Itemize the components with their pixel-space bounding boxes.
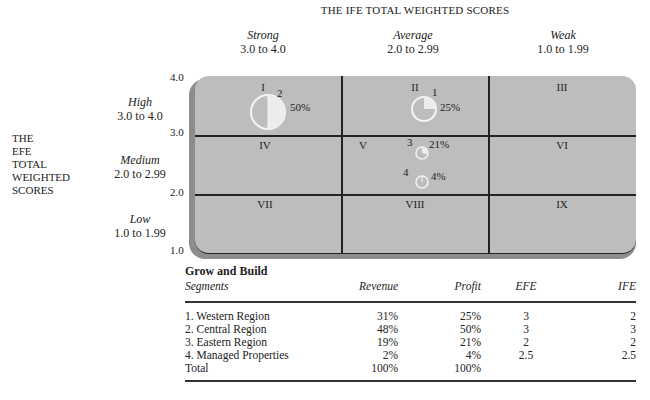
marker-number: 3	[407, 136, 413, 148]
cell-revenue: 19%	[377, 336, 398, 349]
row-header-low: Low 1.0 to 1.99	[100, 212, 180, 240]
cell-ife: 2.5	[622, 349, 636, 362]
marker-number: 2	[277, 87, 283, 99]
efe-title-line: THE	[12, 132, 70, 145]
pie-marker-eastern-region	[414, 145, 430, 161]
cell-ife: 2	[630, 310, 636, 323]
cell-ife: 2	[630, 336, 636, 349]
cell-revenue: 100%	[371, 362, 398, 375]
efe-title-line: WEIGHTED	[12, 171, 70, 184]
cell-segment: 3. Eastern Region	[185, 336, 267, 349]
cell-label-vii: VII	[245, 198, 285, 210]
ife-axis-title: THE IFE TOTAL WEIGHTED SCORES	[180, 4, 650, 16]
marker-percent: 21%	[429, 138, 449, 150]
cell-segment: 2. Central Region	[185, 323, 266, 336]
grid-divider	[341, 76, 343, 253]
cell-ife: 3	[630, 323, 636, 336]
cell-revenue: 48%	[377, 323, 398, 336]
row-header-medium: Medium 2.0 to 2.99	[100, 153, 180, 181]
col-label: Strong	[188, 28, 338, 42]
table-title: Grow and Build	[185, 264, 267, 279]
col-range: 1.0 to 1.99	[537, 42, 588, 56]
header-segments: Segments	[185, 280, 228, 292]
cell-label-v: V	[353, 139, 373, 151]
marker-number: 4	[403, 166, 409, 178]
table-row: 1. Western Region 31% 25% 3 2	[185, 310, 636, 323]
efe-title-line: EFE	[12, 145, 70, 158]
efe-title-line: TOTAL	[12, 158, 70, 171]
cell-segment: Total	[185, 362, 208, 375]
row-label: Low	[100, 212, 180, 226]
ie-matrix-grid: I II III IV V VI VII VIII IX 2 50% 1 25%…	[195, 76, 636, 254]
cell-label-iii: III	[542, 81, 582, 93]
cell-label-vi: VI	[542, 139, 582, 151]
header-efe: EFE	[506, 280, 546, 292]
col-label: Weak	[488, 28, 638, 42]
cell-efe: 3	[506, 323, 546, 336]
cell-profit: 4%	[466, 349, 481, 362]
cell-efe: 3	[506, 310, 546, 323]
grid-divider	[195, 135, 636, 137]
table-row: 3. Eastern Region 19% 21% 2 2	[185, 336, 636, 349]
col-header-strong: Strong 3.0 to 4.0	[188, 28, 338, 56]
table-row: 2. Central Region 48% 50% 3 3	[185, 323, 636, 336]
cell-label-ii: II	[395, 81, 435, 93]
grid-divider	[488, 76, 490, 253]
efe-title-line: SCORES	[12, 184, 70, 197]
marker-number: 1	[432, 86, 438, 98]
pie-marker-managed-properties	[414, 174, 430, 190]
row-label: High	[100, 95, 180, 109]
cell-profit: 21%	[460, 336, 481, 349]
col-range: 2.0 to 2.99	[387, 42, 438, 56]
cell-label-ix: IX	[542, 198, 582, 210]
grid-divider	[195, 194, 636, 196]
cell-profit: 100%	[454, 362, 481, 375]
cell-profit: 50%	[460, 323, 481, 336]
header-revenue: Revenue	[359, 280, 398, 292]
pie-marker-western-region	[410, 95, 438, 123]
efe-axis-title: THE EFE TOTAL WEIGHTED SCORES	[12, 132, 70, 197]
row-header-high: High 3.0 to 4.0	[100, 95, 180, 123]
cell-revenue: 2%	[383, 349, 398, 362]
col-header-average: Average 2.0 to 2.99	[338, 28, 488, 56]
row-label: Medium	[100, 153, 180, 167]
marker-percent: 50%	[290, 101, 310, 113]
marker-percent: 4%	[431, 170, 446, 182]
cell-label-viii: VIII	[395, 198, 435, 210]
col-range: 3.0 to 4.0	[240, 42, 285, 56]
col-header-weak: Weak 1.0 to 1.99	[488, 28, 638, 56]
row-range: 2.0 to 2.99	[114, 167, 165, 181]
row-range: 3.0 to 4.0	[117, 109, 162, 123]
cell-segment: 4. Managed Properties	[185, 349, 289, 362]
cell-efe: 2	[506, 336, 546, 349]
cell-segment: 1. Western Region	[185, 310, 270, 323]
header-profit: Profit	[455, 280, 481, 292]
cell-label-iv: IV	[245, 139, 285, 151]
table-row: 4. Managed Properties 2% 4% 2.5 2.5	[185, 349, 636, 362]
table-bottom-rule	[185, 380, 636, 382]
col-label: Average	[338, 28, 488, 42]
table-header-rule	[185, 301, 636, 303]
y-tick: 4.0	[170, 71, 192, 83]
header-ife: IFE	[618, 280, 636, 292]
marker-percent: 25%	[440, 101, 460, 113]
cell-revenue: 31%	[377, 310, 398, 323]
row-range: 1.0 to 1.99	[114, 226, 165, 240]
table-row-total: Total 100% 100%	[185, 362, 636, 375]
cell-efe: 2.5	[506, 349, 546, 362]
cell-profit: 25%	[460, 310, 481, 323]
